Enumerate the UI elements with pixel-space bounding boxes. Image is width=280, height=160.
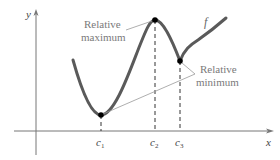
extrema-diagram: y x f Relative maximum Relative minimum … [0, 0, 280, 160]
max-annotation-line2: maximum [81, 31, 126, 43]
c1-point [98, 112, 104, 118]
function-label: f [204, 15, 209, 29]
c2-point [152, 17, 158, 23]
min-leader-line-c1 [103, 74, 195, 114]
max-annotation-line1: Relative [84, 18, 121, 30]
y-axis-label: y [25, 8, 31, 20]
min-leader-line-c3 [182, 63, 195, 74]
c2-tick-label: c2 [150, 136, 159, 150]
c3-tick-label: c3 [175, 136, 184, 150]
min-annotation-line2: minimum [196, 76, 239, 88]
x-axis-label: x [265, 136, 271, 148]
c3-point [177, 58, 183, 64]
c1-tick-label: c1 [96, 136, 105, 150]
min-annotation-line1: Relative [200, 63, 237, 75]
